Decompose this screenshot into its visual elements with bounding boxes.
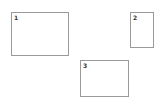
diagram-canvas: 1 2 3 [0, 0, 160, 104]
box-2-label: 2 [133, 14, 137, 22]
box-1[interactable]: 1 [11, 12, 69, 56]
box-1-label: 1 [14, 14, 18, 22]
box-2[interactable]: 2 [130, 12, 154, 48]
box-3-label: 3 [83, 62, 87, 70]
box-3[interactable]: 3 [80, 60, 129, 97]
